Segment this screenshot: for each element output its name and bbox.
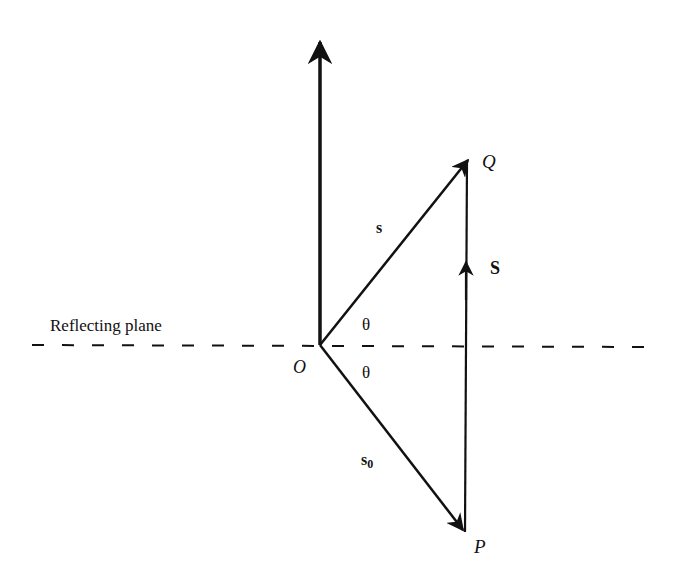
vector-s0-arrow [320, 345, 463, 530]
vector-S-line [465, 160, 467, 532]
reflecting-plane-line [32, 345, 650, 347]
reflection-diagram: Reflecting plane O Q P s s0 S θ θ [0, 0, 676, 584]
vector-s-label: s [376, 219, 382, 236]
vector-S-label: S [490, 258, 500, 278]
vector-s0-label: s0 [361, 451, 373, 471]
vector-s-arrow [320, 160, 468, 345]
reflecting-plane-label: Reflecting plane [50, 316, 162, 335]
angle-theta-upper: θ [362, 315, 370, 334]
origin-label: O [293, 357, 306, 377]
point-p-label: P [473, 536, 486, 557]
angle-theta-lower: θ [362, 363, 370, 382]
point-q-label: Q [482, 151, 496, 172]
